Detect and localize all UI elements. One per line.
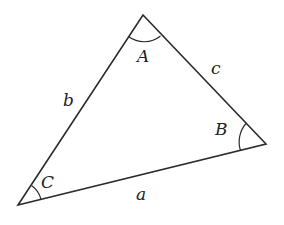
angle-label-A: A <box>135 46 149 66</box>
side-label-c: c <box>211 58 221 78</box>
triangle-outline <box>18 15 266 205</box>
angle-arc-C <box>32 186 42 200</box>
triangle-svg: A B C c b a <box>0 0 284 225</box>
triangle-diagram: A B C c b a <box>0 0 284 225</box>
side-label-a: a <box>136 184 146 204</box>
angle-label-C: C <box>41 172 54 192</box>
angle-label-B: B <box>214 119 228 139</box>
angle-arc-B <box>239 124 246 151</box>
angle-arc-A <box>129 36 161 42</box>
side-label-b: b <box>63 90 74 110</box>
